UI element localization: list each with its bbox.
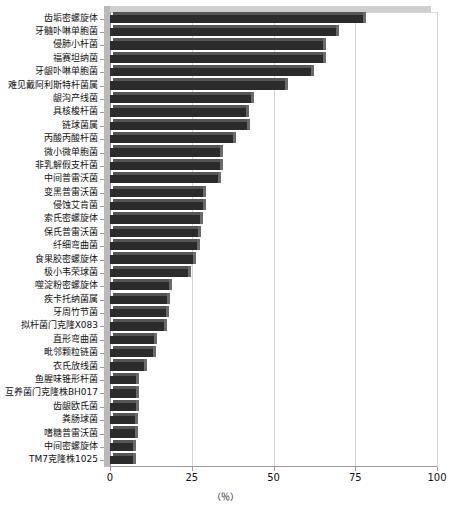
category-label: TM7克隆株1025: [29, 455, 98, 464]
category-label: 互养菌门克隆株BH017: [5, 388, 98, 397]
category-label: 嗜糖普雷沃菌: [44, 429, 98, 438]
bar: [110, 215, 200, 223]
category-label: 极小韦荣球菌: [44, 268, 98, 277]
bar-end-face: [135, 426, 138, 437]
bar: [110, 95, 251, 103]
bar-row: [110, 296, 437, 304]
bar: [110, 68, 311, 76]
bar: [110, 296, 167, 304]
bar-row: [110, 175, 437, 183]
bar: [110, 41, 323, 49]
category-label: 微小微单胞菌: [44, 148, 98, 157]
bar-row: [110, 443, 437, 451]
category-label: 食果胶密螺旋体: [35, 255, 98, 264]
bar-end-face: [311, 65, 314, 76]
bar-row: [110, 15, 437, 23]
bar-end-face: [246, 105, 249, 116]
bar-end-face: [144, 359, 147, 370]
bar-row: [110, 349, 437, 357]
category-label: 侵肺小杆菌: [53, 40, 98, 49]
category-label: 索氏密螺旋体: [44, 214, 98, 223]
bar: [110, 189, 203, 197]
bar-end-face: [169, 279, 172, 290]
bar: [110, 242, 197, 250]
gridline-100: [437, 12, 438, 467]
category-label: 噬淀粉密螺旋体: [35, 281, 98, 290]
bar: [110, 15, 363, 23]
bar-end-face: [167, 293, 170, 304]
bar-end-face: [197, 239, 200, 250]
x-tick-0: [110, 467, 111, 471]
bar: [110, 81, 285, 89]
bar-end-face: [136, 386, 139, 397]
bar-row: [110, 416, 437, 424]
bar: [110, 229, 198, 237]
bar: [110, 322, 164, 330]
bar-row: [110, 202, 437, 210]
bar-end-face: [251, 92, 254, 103]
bar-row: [110, 108, 437, 116]
value-axis: 0255075100: [110, 467, 437, 487]
bar-row: [110, 255, 437, 263]
bar: [110, 148, 220, 156]
x-axis-title: （％）: [0, 490, 451, 503]
category-label: 纤细弯曲菌: [53, 241, 98, 250]
bar-row: [110, 336, 437, 344]
bar: [110, 28, 336, 36]
bar: [110, 175, 218, 183]
bar-row: [110, 282, 437, 290]
bar-row: [110, 376, 437, 384]
bar-chart: 齿垢密螺旋体牙髓卟啉单胞菌侵肺小杆菌福赛坦纳菌牙龈卟啉单胞菌难见戴阿利斯特杆菌属…: [0, 0, 451, 520]
bar: [110, 269, 188, 277]
category-label: 难见戴阿利斯特杆菌属: [8, 81, 98, 90]
bar-end-face: [218, 172, 221, 183]
bar-row: [110, 95, 437, 103]
bar: [110, 309, 166, 317]
bar-row: [110, 135, 437, 143]
bar-end-face: [136, 400, 139, 411]
category-label: 非乳解假支杆菌: [35, 161, 98, 170]
bar-end-face: [203, 186, 206, 197]
bar-row: [110, 122, 437, 130]
bar-end-face: [247, 119, 250, 130]
bar-end-face: [220, 159, 223, 170]
category-label: 中间密螺旋体: [44, 442, 98, 451]
bar: [110, 135, 233, 143]
category-label: 拟杆菌门克隆X083: [21, 321, 98, 330]
bar-end-face: [154, 333, 157, 344]
bar-row: [110, 362, 437, 370]
x-tick-75: [355, 467, 356, 471]
bar-end-face: [233, 132, 236, 143]
bar-end-face: [323, 52, 326, 63]
bar-row: [110, 456, 437, 464]
category-label: 牙周竹节菌: [53, 308, 98, 317]
bar-end-face: [323, 38, 326, 49]
category-label: 具核梭杆菌: [53, 107, 98, 116]
category-label: 链球菌属: [62, 121, 98, 130]
bar-row: [110, 429, 437, 437]
bar-row: [110, 322, 437, 330]
bar-end-face: [363, 12, 366, 23]
bar-end-face: [336, 25, 339, 36]
bar: [110, 429, 135, 437]
x-tick-label-25: 25: [185, 472, 198, 483]
category-label: 衣氏放线菌: [53, 362, 98, 371]
category-label: 福赛坦纳菌: [53, 54, 98, 63]
bar: [110, 362, 144, 370]
bar-end-face: [136, 373, 139, 384]
bar-row: [110, 55, 437, 63]
bar-end-face: [285, 78, 288, 89]
x-tick-50: [274, 467, 275, 471]
category-label: 鱼腥味锥形杆菌: [35, 375, 98, 384]
bar-end-face: [135, 413, 138, 424]
category-label: 丙酸丙酸杆菌: [44, 134, 98, 143]
bar: [110, 376, 136, 384]
bar-row: [110, 229, 437, 237]
category-label: 牙龈卟啉单胞菌: [35, 67, 98, 76]
x-tick-label-0: 0: [107, 472, 113, 483]
category-label: 毗邻颗粒链菌: [44, 348, 98, 357]
x-axis-title-text: （％）: [212, 490, 239, 503]
bar-end-face: [166, 306, 169, 317]
bar-end-face: [200, 212, 203, 223]
category-label: 龈沟产线菌: [53, 94, 98, 103]
